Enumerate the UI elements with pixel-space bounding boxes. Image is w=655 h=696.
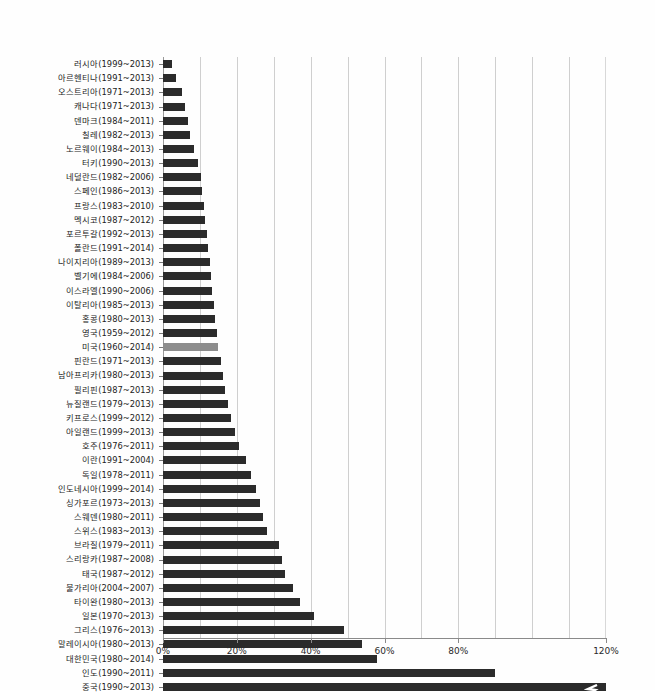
category-label: 스리랑카(1987~2008)	[0, 552, 159, 566]
bar-row	[163, 340, 606, 354]
axis-break-icon	[584, 681, 600, 693]
bar	[163, 400, 228, 408]
category-label: 이스라엘(1990~2006)	[0, 284, 159, 298]
bar-row	[163, 184, 606, 198]
bar-row	[163, 85, 606, 99]
bar-row	[163, 439, 606, 453]
category-label: 프랑스(1983~2010)	[0, 199, 159, 213]
bar-row	[163, 199, 606, 213]
bar	[163, 556, 282, 564]
category-label: 스웨덴(1980~2011)	[0, 510, 159, 524]
category-label: 중국(1990~2013)	[0, 680, 159, 694]
bar	[163, 357, 221, 365]
category-label-column: 러시아(1999~2013)아르헨티나(1991~2013)오스트리아(1971…	[0, 57, 159, 638]
category-label: 불가리아(2004~2007)	[0, 581, 159, 595]
category-label: 싱가포르(1973~2013)	[0, 496, 159, 510]
category-label: 러시아(1999~2013)	[0, 57, 159, 71]
bar	[163, 456, 246, 464]
category-label: 스페인(1986~2013)	[0, 184, 159, 198]
bar	[163, 315, 215, 323]
bar-row	[163, 595, 606, 609]
category-label: 인도(1990~2011)	[0, 666, 159, 680]
x-axis-label: 60%	[374, 646, 394, 656]
bar	[163, 202, 204, 210]
category-label: 그리스(1976~2013)	[0, 623, 159, 637]
bar	[163, 74, 176, 82]
bar-row	[163, 680, 606, 694]
bar-row	[163, 326, 606, 340]
bar-row	[163, 284, 606, 298]
bar-row	[163, 312, 606, 326]
bar-row	[163, 156, 606, 170]
bar	[163, 301, 214, 309]
bar	[163, 60, 172, 68]
category-label: 아일랜드(1999~2013)	[0, 425, 159, 439]
bar	[163, 258, 210, 266]
bar	[163, 655, 377, 663]
category-label: 대한민국(1980~2014)	[0, 652, 159, 666]
bar-row	[163, 269, 606, 283]
bar-row	[163, 666, 606, 680]
bar-row	[163, 552, 606, 566]
x-axis-tick	[163, 638, 164, 643]
bar-row	[163, 581, 606, 595]
category-label: 미국(1960~2014)	[0, 340, 159, 354]
category-label: 홍콩(1980~2013)	[0, 312, 159, 326]
bar	[163, 669, 495, 677]
category-label: 핀란드(1971~2013)	[0, 354, 159, 368]
category-label: 호주(1976~2011)	[0, 439, 159, 453]
bar	[163, 173, 201, 181]
x-axis-tick	[311, 638, 312, 643]
x-axis-label: 120%	[593, 646, 619, 656]
x-axis-tick	[458, 638, 459, 643]
bar	[163, 343, 218, 351]
bar	[163, 541, 279, 549]
bar-row	[163, 227, 606, 241]
category-label: 인도네시아(1999~2014)	[0, 482, 159, 496]
bar-row	[163, 510, 606, 524]
bar-row	[163, 57, 606, 71]
bar	[163, 499, 260, 507]
bar-row	[163, 213, 606, 227]
bar	[163, 570, 285, 578]
category-label: 터키(1990~2013)	[0, 156, 159, 170]
category-label: 멕시코(1987~2012)	[0, 213, 159, 227]
bar-row	[163, 496, 606, 510]
bar	[163, 584, 293, 592]
bar-row	[163, 71, 606, 85]
category-label: 독일(1978~2011)	[0, 468, 159, 482]
bar	[163, 513, 263, 521]
bar-row	[163, 524, 606, 538]
bar	[163, 428, 235, 436]
bar	[163, 612, 314, 620]
category-label: 브라질(1979~2011)	[0, 538, 159, 552]
category-label: 키프로스(1999~2012)	[0, 411, 159, 425]
bar	[163, 103, 185, 111]
category-label: 말레이시아(1980~2013)	[0, 637, 159, 651]
bar-row	[163, 397, 606, 411]
category-label: 캐나다(1971~2013)	[0, 99, 159, 113]
category-label: 남아프리카(1980~2013)	[0, 368, 159, 382]
category-label: 폴란드(1991~2014)	[0, 241, 159, 255]
bar	[163, 485, 256, 493]
bar-row	[163, 142, 606, 156]
category-label: 영국(1959~2012)	[0, 326, 159, 340]
bar	[163, 187, 202, 195]
bar	[163, 159, 198, 167]
x-axis-tick	[385, 638, 386, 643]
bar	[163, 329, 217, 337]
bar	[163, 527, 267, 535]
bar-row	[163, 623, 606, 637]
category-label: 아르헨티나(1991~2013)	[0, 71, 159, 85]
bar-row	[163, 114, 606, 128]
bar	[163, 272, 211, 280]
bar-row	[163, 411, 606, 425]
bar	[163, 287, 212, 295]
bar-row	[163, 368, 606, 382]
category-label: 네덜란드(1982~2006)	[0, 170, 159, 184]
bar-row	[163, 567, 606, 581]
category-label: 뉴질랜드(1979~2013)	[0, 397, 159, 411]
bar	[163, 145, 194, 153]
